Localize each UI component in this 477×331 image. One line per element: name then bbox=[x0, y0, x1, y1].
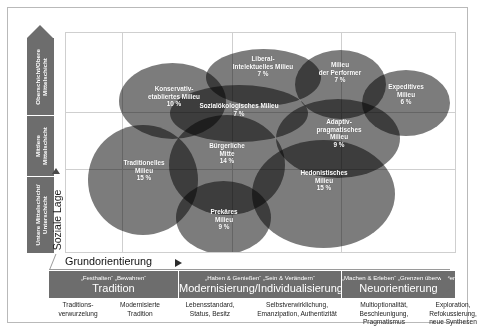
orientation-banner: „Festhalten“ „Bewahren“ Tradition „Haben… bbox=[49, 271, 469, 298]
up-arrow-icon bbox=[52, 168, 60, 174]
caption-exploration: Exploration,Refokussierung,neue Synthese… bbox=[419, 301, 477, 327]
label-sozialoekologisches-milieu: Sozialökologisches Milieu 7 % bbox=[174, 102, 304, 117]
banner-title-modernisierung: Modernisierung/Individualisierung bbox=[179, 282, 341, 295]
banner-segment-tradition[interactable]: „Festhalten“ „Bewahren“ Tradition bbox=[49, 271, 178, 298]
y-axis-title-group: Soziale Lage bbox=[49, 168, 65, 253]
bubble-hedonistisches-milieu[interactable] bbox=[252, 140, 395, 248]
strata-label-upper: Oberschicht/Obere Mittelschicht bbox=[33, 49, 47, 105]
banner-quote-neuorientierung: „Machen & Erleben“ „Grenzen überwinden“ bbox=[342, 271, 455, 282]
strata-label-middle: Mittlere Mittelschicht bbox=[33, 127, 47, 165]
label-hedonistisches-milieu: Hedonistisches Milieu 15 % bbox=[281, 169, 367, 192]
x-axis-line bbox=[49, 269, 450, 270]
axis-arrow-head-icon bbox=[27, 25, 53, 38]
label-traditionelles-milieu: Traditionelles Milieu 15 % bbox=[104, 159, 184, 182]
caption-modernisierte-tradition: ModernisierteTradition bbox=[107, 301, 173, 318]
banner-quote-tradition: „Festhalten“ „Bewahren“ bbox=[49, 271, 178, 282]
x-axis-title-row: Grundorientierung bbox=[49, 254, 469, 270]
label-milieu-der-performer: Milieu der Performer 7 % bbox=[301, 61, 379, 84]
x-axis-title: Grundorientierung bbox=[65, 255, 152, 267]
label-prekaeres-milieu: Prekäres Milieu 9 % bbox=[189, 208, 259, 231]
banner-quote-modernisierung: „Haben & Genießen“ „Sein & Verändern“ bbox=[179, 271, 341, 282]
caption-multioptionalitaet: Multioptionalität,Beschleunigung,Pragmat… bbox=[349, 301, 419, 327]
banner-segment-neuorientierung[interactable]: „Machen & Erleben“ „Grenzen überwinden“ … bbox=[342, 271, 455, 298]
banner-segment-modernisierung[interactable]: „Haben & Genießen“ „Sein & Verändern“ Mo… bbox=[179, 271, 341, 298]
caption-row: Traditions-verwurzelung ModernisierteTra… bbox=[49, 301, 474, 331]
caption-selbstverwirklichung: Selbstverwirklichung,Emanzipation, Authe… bbox=[245, 301, 349, 318]
banner-arrow-head-icon bbox=[441, 271, 455, 297]
strata-segment-upper: Oberschicht/Obere Mittelschicht bbox=[27, 38, 54, 116]
y-axis-title: Soziale Lage bbox=[51, 190, 63, 251]
banner-title-neuorientierung: Neuorientierung bbox=[342, 282, 455, 295]
diagram-frame: Oberschicht/Obere Mittelschicht Mittlere… bbox=[7, 7, 468, 323]
plot-area: Konservativ- etabliertes Milieu 10 % Lib… bbox=[65, 32, 456, 253]
caption-lebensstandard: Lebensstandard,Status, Besitz bbox=[175, 301, 245, 318]
right-arrow-icon bbox=[175, 259, 182, 267]
caption-traditionsverwurzelung: Traditions-verwurzelung bbox=[49, 301, 107, 318]
strata-label-lower: Untere Mittelschicht/ Unterschicht bbox=[33, 185, 47, 246]
label-buergerliche-mitte: Bürgerliche Mitte 14 % bbox=[189, 142, 265, 165]
label-adaptiv-pragmatisches-milieu: Adaptiv- pragmatisches Milieu 9 % bbox=[296, 118, 382, 148]
banner-title-tradition: Tradition bbox=[49, 282, 178, 295]
label-expeditives-milieu: Expeditives Milieu 6 % bbox=[369, 83, 443, 106]
